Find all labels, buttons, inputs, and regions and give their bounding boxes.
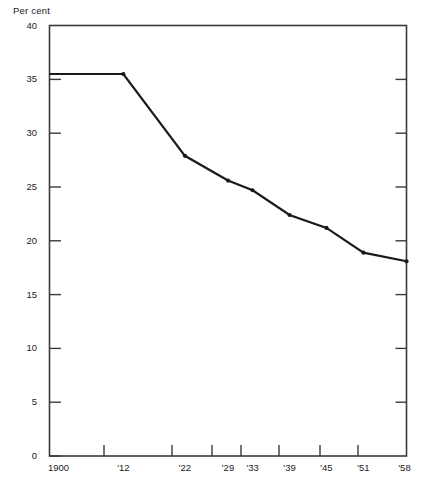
data-point-marker bbox=[121, 72, 125, 76]
x-tick-label: '33 bbox=[233, 462, 273, 473]
x-tick-label: '12 bbox=[103, 462, 143, 473]
plot-frame bbox=[50, 26, 407, 457]
y-tick-marks-right bbox=[396, 79, 407, 402]
x-tick-label: '39 bbox=[270, 462, 310, 473]
x-tick-label: 1900 bbox=[39, 462, 79, 473]
chart-plot-area bbox=[0, 0, 421, 487]
y-tick-label: 30 bbox=[15, 127, 37, 138]
chart-figure: Per cent bbox=[0, 0, 421, 487]
y-tick-label: 40 bbox=[15, 20, 37, 31]
data-series-line bbox=[50, 74, 407, 261]
page-caption-faint bbox=[0, 477, 421, 487]
x-tick-label: '51 bbox=[343, 462, 383, 473]
data-point-marker bbox=[226, 178, 230, 182]
y-tick-marks bbox=[50, 79, 62, 456]
data-point-marker bbox=[361, 251, 365, 255]
x-tick-label: '45 bbox=[306, 462, 346, 473]
y-tick-label: 35 bbox=[15, 73, 37, 84]
data-point-marker bbox=[287, 213, 291, 217]
data-point-marker bbox=[324, 226, 328, 230]
data-point-marker bbox=[404, 259, 408, 263]
x-tick-label: '58 bbox=[385, 462, 421, 473]
data-point-marker bbox=[183, 154, 187, 158]
x-tick-marks bbox=[104, 445, 358, 456]
data-point-markers bbox=[121, 72, 408, 263]
y-tick-label: 15 bbox=[15, 289, 37, 300]
y-tick-label: 25 bbox=[15, 181, 37, 192]
x-tick-label: '22 bbox=[165, 462, 205, 473]
y-tick-label: 5 bbox=[15, 396, 37, 407]
y-tick-label: 20 bbox=[15, 235, 37, 246]
data-point-marker bbox=[251, 188, 255, 192]
y-tick-label: 10 bbox=[15, 342, 37, 353]
y-tick-label: 0 bbox=[15, 450, 37, 461]
